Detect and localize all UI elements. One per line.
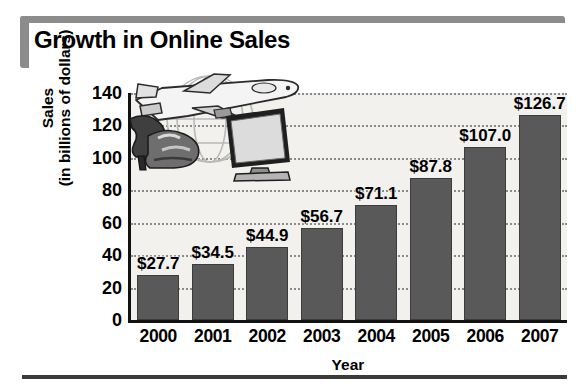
bar[interactable] [246, 247, 288, 320]
bar-value-label: $107.0 [448, 126, 522, 146]
chart-plot-wrapper: $27.7$34.5$44.9$56.7$71.1$87.8$107.0$126… [128, 88, 566, 321]
bar-value-label: $126.7 [503, 94, 577, 114]
x-axis-ticks: 20002001200220032004200520062007 [131, 326, 567, 347]
bar-column[interactable]: $107.0 [464, 93, 506, 320]
bar-value-label: $56.7 [285, 207, 359, 227]
chart-header: Growth in Online Sales [0, 0, 579, 72]
y-tick-label: 0 [76, 310, 122, 331]
footer-rule [22, 375, 567, 379]
bar-column[interactable]: $34.5 [192, 93, 234, 320]
x-tick-label: 2001 [192, 326, 234, 347]
x-tick-label: 2002 [246, 326, 288, 347]
y-tick-label: 120 [76, 115, 122, 136]
x-tick-label: 2007 [519, 326, 561, 347]
y-tick-label: 20 [76, 277, 122, 298]
x-tick-label: 2004 [355, 326, 397, 347]
y-tick-label: 40 [76, 245, 122, 266]
x-tick-label: 2000 [137, 326, 179, 347]
header-left-accent-bar [20, 16, 29, 68]
y-axis-title: Sales (in billions of dollars) [33, 0, 79, 227]
bar[interactable] [301, 228, 343, 320]
bar-column[interactable]: $56.7 [301, 93, 343, 320]
y-tick-label: 80 [76, 180, 122, 201]
x-tick-label: 2006 [464, 326, 506, 347]
bar-column[interactable]: $71.1 [355, 93, 397, 320]
y-tick-label: 100 [76, 147, 122, 168]
bar[interactable] [410, 178, 452, 320]
bar-value-label: $87.8 [394, 157, 468, 177]
bar[interactable] [355, 205, 397, 320]
y-tick-label: 60 [76, 212, 122, 233]
y-axis-title-line2: (in billions of dollars) [56, 30, 73, 187]
x-tick-label: 2005 [410, 326, 452, 347]
bar-value-label: $71.1 [339, 184, 413, 204]
y-tick-label: 140 [76, 83, 122, 104]
bar[interactable] [519, 115, 561, 320]
bar[interactable] [192, 264, 234, 320]
bar-value-label: $44.9 [230, 226, 304, 246]
header-top-rule [20, 16, 565, 23]
bar-column[interactable]: $44.9 [246, 93, 288, 320]
bar-column[interactable]: $27.7 [137, 93, 179, 320]
bar-series: $27.7$34.5$44.9$56.7$71.1$87.8$107.0$126… [131, 93, 567, 320]
x-axis-title: Year [128, 356, 568, 374]
bar[interactable] [464, 147, 506, 320]
bar-column[interactable]: $87.8 [410, 93, 452, 320]
bar[interactable] [137, 275, 179, 320]
bar-column[interactable]: $126.7 [519, 93, 561, 320]
y-axis-title-line1: Sales [39, 88, 56, 129]
x-tick-label: 2003 [301, 326, 343, 347]
